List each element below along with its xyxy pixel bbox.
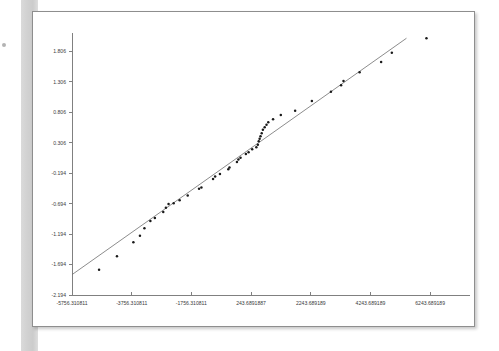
scatter-point [236,161,239,164]
scatter-point [212,178,215,181]
scatter-point [257,140,260,143]
scatter-point [311,100,314,103]
scatter-point [219,173,222,176]
x-tick-label: -3756.310811 [116,300,147,306]
scatter-plot: 1.8061.3060.8060.306-0.194-0.694-1.194-1… [33,12,474,326]
scatter-point [358,71,361,74]
scatter-point [116,255,119,258]
page-root: 1.8061.3060.8060.306-0.194-0.694-1.194-1… [0,0,499,351]
scatter-point [267,121,270,124]
scatter-point [260,132,263,135]
scatter-point [257,144,260,147]
scatter-point [228,166,231,169]
x-tick-label: 243.6891887 [236,300,266,306]
x-tick-label: 6243.689189 [415,300,445,306]
regression-fit-line [72,38,406,274]
scatter-point [132,241,135,244]
y-tick-label: 1.306 [53,79,66,85]
scatter-point [214,175,217,178]
y-tick-label: -0.194 [52,170,67,176]
scatter-point [251,148,254,151]
chart-canvas: 1.8061.3060.8060.306-0.194-0.694-1.194-1… [33,12,474,326]
scatter-point [239,156,242,159]
scatter-point [255,146,257,149]
scatter-point [149,220,152,223]
y-tick-label: -2.194 [52,292,67,298]
y-tick-label: -0.694 [52,201,67,207]
scatter-point [198,187,201,190]
scatter-point [186,194,189,197]
scatter-point [245,153,248,156]
x-tick-label: 2243.689189 [296,300,326,306]
scatter-point [272,118,275,121]
scatter-point [391,52,394,55]
y-tick-label: -1.694 [52,261,67,267]
scatter-point [247,151,250,154]
scatter-point [98,269,101,272]
scatter-point [172,202,175,205]
scatter-point [200,186,203,189]
y-tick-label: 1.806 [53,48,66,54]
scatter-point [263,126,266,129]
x-tick-label: -1756.310811 [176,300,207,306]
scatter-point [280,114,283,117]
scatter-point [167,203,170,206]
scatter-point [265,124,268,127]
scatter-point [259,135,262,138]
scatter-point [139,234,142,237]
x-tick-label: -5756.310811 [56,300,87,306]
scatter-point [262,128,265,131]
scatter-point [342,80,345,83]
y-tick-label: 0.306 [53,140,66,146]
scatter-point [237,158,240,161]
scan-speck-artifact [2,43,6,47]
scatter-point [294,109,297,112]
scatter-point [340,84,343,87]
y-tick-label: -1.194 [52,231,67,237]
y-tick-label: 0.806 [53,109,66,115]
scatter-point [143,227,146,230]
chart-card: 1.8061.3060.8060.306-0.194-0.694-1.194-1… [32,11,475,327]
scatter-point [154,217,157,220]
scatter-point [380,61,383,64]
scatter-point [178,199,181,202]
scatter-point [162,211,165,214]
scatter-point [258,138,261,141]
x-tick-label: 4243.689189 [356,300,386,306]
scatter-point [165,206,168,209]
scatter-point [425,37,428,40]
scatter-point [330,91,333,94]
